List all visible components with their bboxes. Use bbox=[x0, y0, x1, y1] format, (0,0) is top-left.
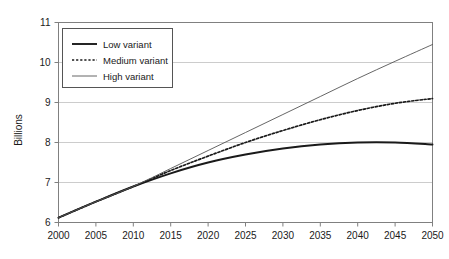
x-tick-label-2005: 2005 bbox=[85, 230, 108, 241]
legend-label-low-variant: Low variant bbox=[103, 39, 152, 50]
x-axis-tick-labels-group: 2000200520102015202020252030203520402045… bbox=[47, 230, 444, 241]
legend-label-medium-variant: Medium variant bbox=[103, 55, 168, 66]
chart-canvas: 67891011 2000200520102015202020252030203… bbox=[0, 0, 449, 259]
y-tick-label-8: 8 bbox=[45, 137, 51, 148]
x-tick-label-2020: 2020 bbox=[197, 230, 220, 241]
x-tick-label-2015: 2015 bbox=[160, 230, 183, 241]
y-tick-label-7: 7 bbox=[45, 177, 51, 188]
legend-label-high-variant: High variant bbox=[103, 71, 154, 82]
x-tick-label-2050: 2050 bbox=[421, 230, 444, 241]
chart-legend: Low variantMedium variantHigh variant bbox=[63, 29, 173, 88]
x-tick-label-2025: 2025 bbox=[234, 230, 257, 241]
x-tick-label-2030: 2030 bbox=[272, 230, 295, 241]
y-tick-label-11: 11 bbox=[40, 17, 51, 28]
x-tick-label-2045: 2045 bbox=[384, 230, 407, 241]
x-tick-label-2040: 2040 bbox=[347, 230, 370, 241]
y-tick-label-6: 6 bbox=[45, 217, 51, 228]
x-tick-label-2010: 2010 bbox=[122, 230, 145, 241]
x-tick-label-2035: 2035 bbox=[309, 230, 332, 241]
y-tick-label-9: 9 bbox=[45, 97, 51, 108]
x-tick-label-2000: 2000 bbox=[47, 230, 70, 241]
y-axis-title: Billions bbox=[13, 114, 24, 146]
y-tick-label-10: 10 bbox=[39, 57, 51, 68]
population-projection-chart: 67891011 2000200520102015202020252030203… bbox=[0, 0, 449, 259]
